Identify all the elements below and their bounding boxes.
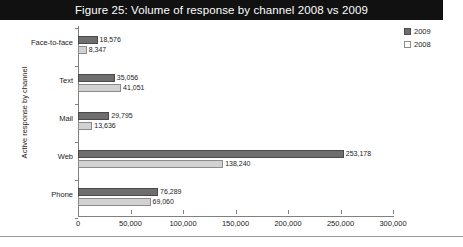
bar-2008[interactable]: 8,347 [78, 46, 87, 54]
plot-region: Face-to-face18,5768,347Text35,05641,051M… [78, 26, 393, 216]
x-axis-tick [236, 210, 237, 214]
figure-container: Figure 25: Volume of response by channel… [0, 0, 463, 247]
bar-2008[interactable]: 13,636 [78, 122, 92, 130]
x-axis-tick [131, 210, 132, 214]
category-label: Text [3, 76, 73, 85]
bar-2008[interactable]: 138,240 [78, 160, 223, 168]
x-axis-label: 150,000 [206, 219, 266, 228]
y-axis-tick [75, 142, 78, 143]
x-axis-label: 300,000 [363, 219, 423, 228]
bar-2009[interactable]: 18,576 [78, 36, 98, 44]
bar-value-label: 35,056 [117, 74, 138, 81]
bar-group: Text35,05641,051 [78, 66, 393, 104]
bar-2009[interactable]: 29,795 [78, 112, 109, 120]
x-axis-label: 100,000 [153, 219, 213, 228]
chart-area: Active response by channel Face-to-face1… [0, 20, 463, 247]
bar-value-label: 18,576 [100, 36, 121, 43]
x-axis-tick [393, 210, 394, 214]
legend: 2009 2008 [404, 24, 460, 50]
bar-value-label: 29,795 [111, 112, 132, 119]
x-axis-label: 0 [48, 219, 108, 228]
legend-swatch-2008 [404, 41, 411, 48]
category-label: Face-to-face [3, 38, 73, 47]
x-axis-label: 200,000 [258, 219, 318, 228]
legend-item-2008: 2008 [404, 37, 460, 50]
bar-value-label: 8,347 [89, 46, 107, 53]
category-label: Phone [3, 190, 73, 199]
bar-group: Web253,178138,240 [78, 142, 393, 180]
bottom-divider [0, 236, 463, 237]
x-axis-label: 50,000 [101, 219, 161, 228]
bar-value-label: 253,178 [346, 150, 371, 157]
bar-2009[interactable]: 35,056 [78, 74, 115, 82]
bar-value-label: 69,060 [153, 198, 174, 205]
legend-label-2008: 2008 [414, 38, 431, 51]
category-label: Mail [3, 114, 73, 123]
bar-group: Face-to-face18,5768,347 [78, 28, 393, 66]
x-axis-tick [183, 210, 184, 214]
bar-value-label: 41,051 [123, 84, 144, 91]
y-axis-tick [75, 28, 78, 29]
x-axis-label: 250,000 [311, 219, 371, 228]
y-axis-tick [75, 104, 78, 105]
legend-swatch-2009 [404, 28, 411, 35]
category-label: Web [3, 152, 73, 161]
bar-value-label: 76,289 [160, 188, 181, 195]
bar-2009[interactable]: 76,289 [78, 188, 158, 196]
bar-value-label: 13,636 [94, 122, 115, 129]
legend-item-2009: 2009 [404, 24, 460, 37]
figure-title-bar: Figure 25: Volume of response by channel… [0, 0, 443, 20]
bar-2009[interactable]: 253,178 [78, 150, 344, 158]
x-axis-tick [341, 210, 342, 214]
y-axis-tick [75, 180, 78, 181]
y-axis-tick [75, 66, 78, 67]
bar-2008[interactable]: 41,051 [78, 84, 121, 92]
bar-group: Mail29,79513,636 [78, 104, 393, 142]
y-axis-title: Active response by channel [20, 38, 29, 188]
x-axis-tick [288, 210, 289, 214]
bar-2008[interactable]: 69,060 [78, 198, 151, 206]
bar-value-label: 138,240 [225, 160, 250, 167]
figure-title: Figure 25: Volume of response by channel… [0, 0, 443, 20]
x-axis-tick [78, 210, 79, 214]
